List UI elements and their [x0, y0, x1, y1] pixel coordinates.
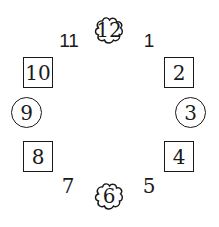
number-12: 12 [93, 15, 125, 45]
number-3: 3 [184, 101, 197, 125]
number-5: 5 [143, 176, 156, 196]
number-1: 1 [144, 31, 155, 50]
number-6: 6 [93, 181, 125, 211]
number-4-square: 4 [164, 141, 194, 172]
number-4: 4 [173, 145, 186, 169]
number-10-square: 10 [23, 57, 53, 88]
number-8: 8 [32, 145, 45, 169]
number-7: 7 [62, 176, 75, 196]
number-12-cloud: 12 [93, 15, 125, 45]
number-8-square: 8 [23, 141, 53, 172]
number-3-circle: 3 [175, 97, 206, 128]
number-6-cloud: 6 [93, 181, 125, 211]
number-10: 10 [25, 61, 50, 85]
clock-diagram: 12 1 2 3 4 5 6 7 8 9 10 11 [0, 0, 219, 227]
number-9: 9 [20, 101, 33, 125]
number-2: 2 [173, 61, 186, 85]
number-2-square: 2 [164, 57, 194, 88]
number-11: 11 [59, 31, 79, 50]
number-9-circle: 9 [11, 97, 42, 128]
